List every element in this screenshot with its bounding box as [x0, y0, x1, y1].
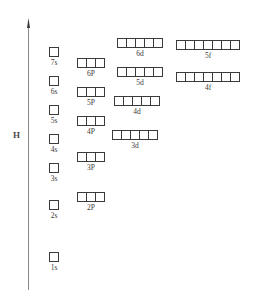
orbital-4f[interactable]: 4f: [176, 72, 240, 92]
orbital-label: 5s: [49, 117, 59, 125]
orbital-label: 3d: [112, 142, 158, 150]
orbital-label: 5d: [117, 79, 163, 87]
orbital-box-row: [49, 200, 59, 210]
orbital-3d[interactable]: 3d: [112, 130, 158, 150]
orbital-box[interactable]: [153, 67, 163, 77]
orbital-box-row: [176, 72, 240, 82]
orbital-6d[interactable]: 6d: [117, 38, 163, 58]
orbital-box[interactable]: [49, 47, 59, 57]
orbital-box-row: [49, 105, 59, 115]
orbital-label: 5P: [77, 99, 105, 107]
orbital-box[interactable]: [153, 38, 163, 48]
orbital-label: 1s: [49, 264, 59, 272]
orbital-box-row: [77, 152, 105, 162]
orbital-7s[interactable]: 7s: [49, 47, 59, 67]
orbital-4d[interactable]: 4d: [114, 96, 160, 116]
orbital-box-row: [77, 116, 105, 126]
orbital-label: 5f: [176, 52, 240, 60]
orbital-box[interactable]: [49, 200, 59, 210]
orbital-box-row: [49, 134, 59, 144]
orbital-6s[interactable]: 6s: [49, 76, 59, 96]
orbital-5s[interactable]: 5s: [49, 105, 59, 125]
orbital-2s[interactable]: 2s: [49, 200, 59, 220]
orbital-4s[interactable]: 4s: [49, 134, 59, 154]
orbital-box[interactable]: [49, 76, 59, 86]
orbital-3p[interactable]: 3P: [77, 152, 105, 172]
orbital-box[interactable]: [150, 96, 160, 106]
orbital-2p[interactable]: 2P: [77, 192, 105, 212]
orbital-5p[interactable]: 5P: [77, 87, 105, 107]
orbital-box[interactable]: [95, 87, 105, 97]
orbital-box[interactable]: [49, 163, 59, 173]
orbital-label: 4s: [49, 146, 59, 154]
orbital-box-row: [176, 40, 240, 50]
orbital-box-row: [49, 163, 59, 173]
orbital-label: 3P: [77, 164, 105, 172]
orbital-3s[interactable]: 3s: [49, 163, 59, 183]
orbital-5d[interactable]: 5d: [117, 67, 163, 87]
orbital-box-row: [114, 96, 160, 106]
orbital-box[interactable]: [148, 130, 158, 140]
orbital-label: 6d: [117, 50, 163, 58]
orbital-label: 7s: [49, 59, 59, 67]
orbital-box-row: [77, 192, 105, 202]
orbital-label: 2s: [49, 212, 59, 220]
orbital-box-row: [77, 58, 105, 68]
orbital-5f[interactable]: 5f: [176, 40, 240, 60]
orbital-label: 4d: [114, 108, 160, 116]
orbital-box[interactable]: [49, 252, 59, 262]
orbital-box-row: [77, 87, 105, 97]
orbital-label: 6P: [77, 70, 105, 78]
orbital-energy-diagram: H 7s6s5s4s3s2s1s6P5P4P3P2P6d5d4d3d5f4f: [0, 0, 253, 308]
orbital-box[interactable]: [95, 152, 105, 162]
up-arrow-icon: [27, 18, 30, 290]
orbital-box[interactable]: [95, 116, 105, 126]
energy-axis-label: H: [13, 131, 20, 140]
orbital-1s[interactable]: 1s: [49, 252, 59, 272]
orbital-box-row: [117, 67, 163, 77]
orbital-box-row: [112, 130, 158, 140]
orbital-box-row: [49, 252, 59, 262]
orbital-box-row: [117, 38, 163, 48]
orbital-label: 3s: [49, 175, 59, 183]
orbital-box[interactable]: [95, 192, 105, 202]
orbital-4p[interactable]: 4P: [77, 116, 105, 136]
orbital-box[interactable]: [230, 72, 240, 82]
orbital-box[interactable]: [49, 134, 59, 144]
orbital-box[interactable]: [230, 40, 240, 50]
orbital-box[interactable]: [49, 105, 59, 115]
orbital-label: 2P: [77, 204, 105, 212]
orbital-box-row: [49, 76, 59, 86]
orbital-label: 4P: [77, 128, 105, 136]
orbital-box-row: [49, 47, 59, 57]
orbital-6p[interactable]: 6P: [77, 58, 105, 78]
orbital-box[interactable]: [95, 58, 105, 68]
orbital-label: 4f: [176, 84, 240, 92]
orbital-label: 6s: [49, 88, 59, 96]
